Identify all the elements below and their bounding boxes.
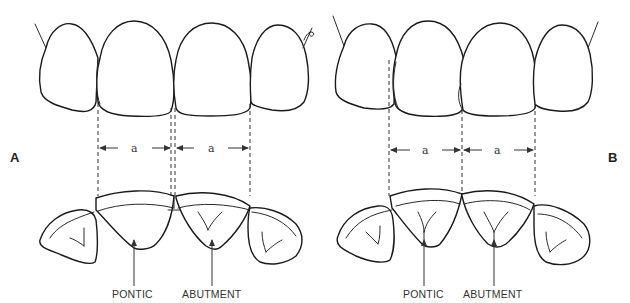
dimension-label: a xyxy=(131,142,138,155)
tooth-lateral-left-b xyxy=(335,24,396,109)
dimension-label: a xyxy=(494,144,501,157)
incisal-abutment-b xyxy=(462,191,534,247)
dimension-b-1: a xyxy=(391,144,460,157)
gingival-line-left-b xyxy=(333,16,344,46)
scribble-mark xyxy=(304,32,314,40)
gingival-line-right-b xyxy=(588,22,598,48)
tooth-lateral-right xyxy=(250,25,308,111)
incisal-view-b xyxy=(337,189,590,265)
panel-label-b: B xyxy=(608,150,617,165)
tooth-lateral-right-b xyxy=(534,25,593,111)
tooth-lateral-left xyxy=(40,24,98,112)
gingival-line-left xyxy=(35,24,46,48)
tooth-central-left-b xyxy=(393,21,465,116)
labial-view-b xyxy=(333,16,598,116)
dimension-label: a xyxy=(208,142,215,155)
incisal-view-a xyxy=(40,191,302,264)
panel-b: B a a xyxy=(333,16,617,300)
pontic-label-b: PONTIC xyxy=(403,288,444,300)
labial-view-a xyxy=(35,21,314,116)
incisal-tooth-right xyxy=(248,208,302,264)
abutment-label-a: ABUTMENT xyxy=(182,288,242,300)
dental-diagram: A a a xyxy=(0,0,630,303)
incisal-pontic xyxy=(96,191,174,249)
pontic-label-a: PONTIC xyxy=(112,288,153,300)
tooth-central-right xyxy=(174,23,252,116)
abutment-label-b: ABUTMENT xyxy=(463,288,523,300)
tooth-central-left xyxy=(97,21,174,116)
incisal-pontic-b xyxy=(390,189,462,247)
dimension-b-2: a xyxy=(464,144,533,157)
dimension-a-1: a xyxy=(100,142,170,155)
panel-label-a: A xyxy=(10,150,20,165)
projection-lines-a xyxy=(98,103,250,196)
tooth-central-right-b xyxy=(460,23,537,116)
incisal-tooth-left-b xyxy=(337,206,394,262)
dimension-label: a xyxy=(422,144,429,157)
panel-a: A a a xyxy=(10,21,314,300)
incisal-abutment xyxy=(176,193,250,249)
dimension-a-2: a xyxy=(177,142,248,155)
incisal-tooth-left xyxy=(40,210,98,264)
